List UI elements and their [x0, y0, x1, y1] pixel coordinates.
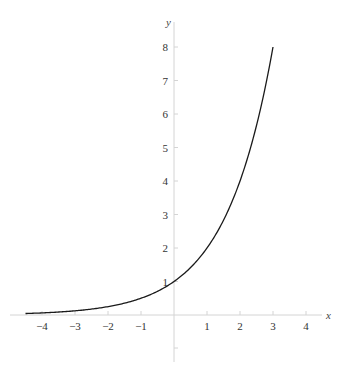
y-axis-label: y: [165, 16, 171, 28]
x-tick-label: −2: [102, 320, 114, 332]
y-tick-label: 3: [163, 209, 169, 221]
x-tick-label: −1: [135, 320, 147, 332]
x-ticks: −4−3−2−11234: [36, 311, 309, 332]
y-tick-label: 5: [163, 142, 169, 154]
x-axis-label: x: [325, 309, 331, 321]
y-tick-label: 2: [163, 242, 169, 254]
y-tick-label: 4: [163, 175, 169, 187]
y-tick-label: 8: [163, 41, 169, 53]
y-ticks: 12345678: [163, 41, 179, 288]
chart-canvas: −4−3−2−11234 12345678 x y: [0, 0, 350, 385]
x-tick-label: 1: [204, 320, 210, 332]
x-tick-label: −3: [69, 320, 81, 332]
x-tick-label: 2: [237, 320, 243, 332]
y-tick-label: 7: [163, 75, 169, 87]
x-tick-label: −4: [36, 320, 48, 332]
exponential-curve: [26, 47, 274, 314]
y-tick-label: 6: [163, 108, 169, 120]
x-tick-label: 4: [303, 320, 309, 332]
x-tick-label: 3: [270, 320, 276, 332]
